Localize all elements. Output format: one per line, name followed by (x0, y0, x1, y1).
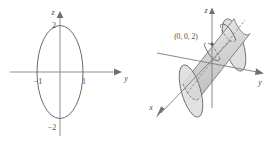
tick-label-y-positive: 1 (82, 77, 86, 86)
point-marker-0-0-2 (210, 42, 213, 45)
z-axis-2d (57, 11, 64, 136)
tick-label-y-negative: −1 (34, 77, 43, 86)
tick-label-z-positive: 2 (52, 21, 56, 30)
axis-label-y-3d: y (257, 78, 262, 87)
tick-label-z-negative: −2 (48, 123, 57, 132)
point-label-0-0-2: (0, 0, 2) (174, 32, 198, 41)
axis-label-x-3d: x (148, 103, 153, 112)
axis-label-y-2d: y (123, 74, 128, 83)
panel-3d-cylinder: z y x (0, 0, 2) (137, 0, 275, 146)
panel-2d-ellipse: −1 1 2 −2 y z (0, 0, 137, 146)
math-figure: −1 1 2 −2 y z (0, 0, 275, 146)
axis-label-z-2d: z (50, 8, 55, 17)
axis-label-z-3d: z (203, 6, 208, 15)
y-axis-2d (10, 69, 122, 76)
